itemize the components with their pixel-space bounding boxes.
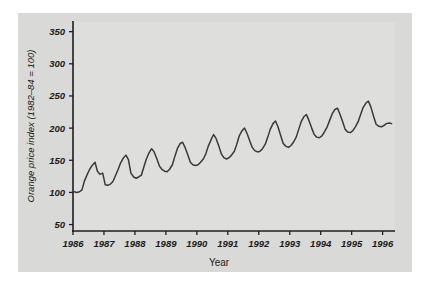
y-tick-label: 350 (49, 26, 66, 37)
y-tick-label: 300 (49, 58, 66, 69)
x-tick-label: 1995 (341, 238, 363, 249)
x-tick-label: 1991 (217, 238, 238, 249)
y-tick-label: 150 (49, 155, 66, 166)
x-tick-label: 1993 (279, 238, 301, 249)
x-tick-label: 1996 (372, 238, 394, 249)
y-tick-label: 50 (54, 219, 65, 230)
x-tick-label: 1988 (124, 238, 146, 249)
x-tick-label: 1994 (310, 238, 332, 249)
chart-figure: 50100150200250300350 1986198719881989199… (0, 0, 431, 291)
y-axis-title: Orange price index (1982–84 = 100) (25, 50, 36, 203)
x-axis: 1986198719881989199019911992199319941995… (62, 231, 395, 249)
x-tick-label: 1986 (62, 238, 84, 249)
x-tick-label: 1989 (155, 238, 177, 249)
data-line-orange-price-index (74, 101, 391, 192)
line-chart: 50100150200250300350 1986198719881989199… (0, 0, 431, 291)
data-series-group (74, 101, 391, 192)
y-axis: 50100150200250300350 (48, 21, 73, 232)
x-axis-title: Year (209, 257, 230, 268)
x-tick-label: 1987 (93, 238, 115, 249)
y-tick-label: 200 (48, 123, 66, 134)
x-tick-label: 1990 (186, 238, 208, 249)
y-tick-label: 250 (48, 90, 66, 101)
x-tick-label: 1992 (248, 238, 270, 249)
y-tick-label: 100 (49, 187, 66, 198)
